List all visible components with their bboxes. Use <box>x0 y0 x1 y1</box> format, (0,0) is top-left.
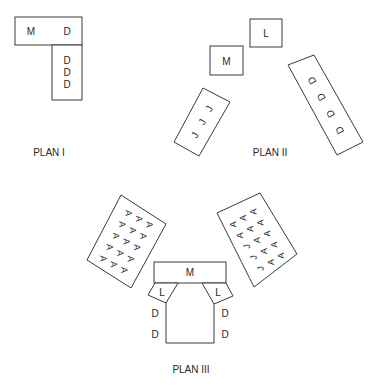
audience-seat: A <box>252 237 262 243</box>
audience-seat: A <box>145 221 155 227</box>
audience-seat: J <box>242 244 252 249</box>
audience-seat: A <box>109 261 119 267</box>
plan2-title: PLAN II <box>253 147 287 158</box>
plan3-seat-m: M <box>186 267 194 278</box>
audience-seat: A <box>266 259 276 265</box>
audience-seat: A <box>138 233 148 239</box>
plan3-seat-l: L <box>215 287 221 298</box>
plan-2: L M J J J D D D D PLAN II <box>174 19 363 158</box>
audience-seat: A <box>124 210 134 216</box>
audience-seat: A <box>126 256 136 262</box>
plan-1: M D D D D PLAN I <box>15 17 82 158</box>
audience-seat: A <box>248 208 258 214</box>
audience-seat: J <box>249 255 259 260</box>
plan1-title: PLAN I <box>33 147 65 158</box>
plan3-title: PLAN III <box>172 364 209 375</box>
audience-seat: A <box>262 230 272 236</box>
plan3-seat-d: D <box>151 329 158 340</box>
audience-seat: A <box>228 221 238 227</box>
audience-seat: A <box>238 215 248 221</box>
plan3-seat-d: D <box>221 329 228 340</box>
audience-seat: A <box>121 238 131 244</box>
audience-seat: J <box>256 266 266 271</box>
plan3-seat-d: D <box>151 308 158 319</box>
audience-seat: A <box>105 244 115 250</box>
plan3-seat-d: D <box>221 308 228 319</box>
audience-seat: A <box>134 216 144 222</box>
audience-seat: A <box>111 233 121 239</box>
audience-seat: A <box>128 227 138 233</box>
audience-seat: A <box>132 244 142 250</box>
plan1-seat-d: D <box>63 55 70 66</box>
audience-seat: A <box>115 250 125 256</box>
plan2-seat-m: M <box>222 56 230 67</box>
plan2-seat-l: L <box>263 28 269 39</box>
audience-seat: A <box>117 221 127 227</box>
audience-seat: A <box>259 248 269 254</box>
plan2-d-table <box>288 55 363 155</box>
plan1-seat-m: M <box>27 26 35 37</box>
audience-seat: A <box>98 255 108 261</box>
plan1-seat-d: D <box>63 79 70 90</box>
plan3-body-table <box>166 303 214 343</box>
audience-seat: A <box>245 226 255 232</box>
seating-plans-diagram: M D D D D PLAN I L M J J J D D D D PLAN … <box>0 0 384 392</box>
audience-seat: A <box>269 241 279 247</box>
plan1-top-table <box>15 17 82 45</box>
audience-seat: A <box>276 253 286 259</box>
plan3-seat-l: L <box>159 287 165 298</box>
plan-3: A A A A A A A A A A A A A A A A A A A A … <box>87 193 297 375</box>
plan1-seat-d: D <box>63 26 70 37</box>
audience-seat: A <box>119 267 129 273</box>
audience-seat: A <box>235 232 245 238</box>
audience-seat: A <box>255 219 265 225</box>
plan1-seat-d: D <box>63 67 70 78</box>
